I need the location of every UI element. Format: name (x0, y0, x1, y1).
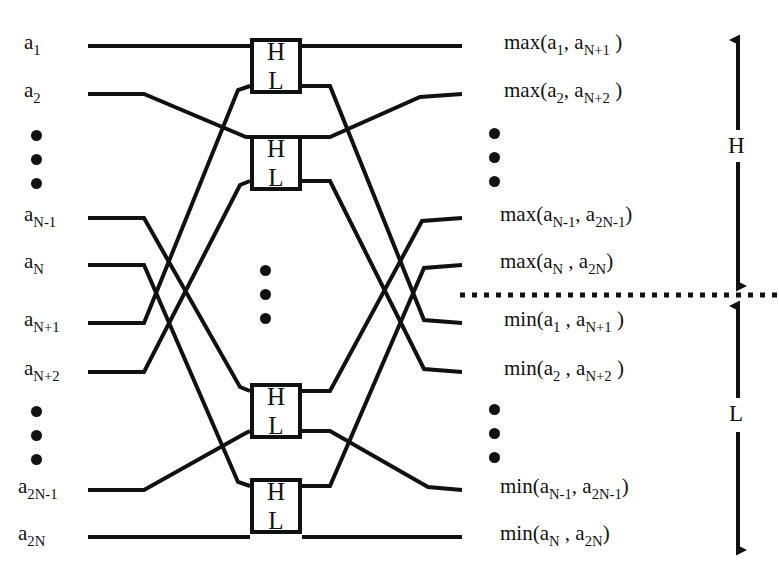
output-arg2-subscript: N+2 (585, 368, 611, 384)
input-subscript: 1 (33, 42, 40, 58)
input-base: a (24, 78, 33, 102)
comparator-lower-label: L (268, 66, 283, 96)
output-arg1-subscript: N (552, 261, 563, 277)
output-arg2-subscript: N+1 (584, 42, 610, 58)
comparator-box-2[interactable]: H L (250, 135, 302, 191)
output-ellipsis-upper (489, 128, 500, 187)
output-arg2-subscript: 2N (588, 261, 606, 277)
ellipsis-dot (31, 154, 42, 165)
output-arg2-base: a (574, 30, 583, 54)
comparator-box-4[interactable]: H L (250, 478, 302, 534)
output-label-min-aN: min(aN , a2N) (500, 521, 610, 550)
output-arg1-subscript: N-1 (552, 214, 575, 230)
comparator-box-1[interactable]: H L (250, 38, 302, 94)
ellipsis-dot (260, 265, 271, 276)
output-label-min-aN-1: min(aN-1, a2N-1) (500, 474, 629, 503)
output-arg1-base: a (544, 356, 553, 380)
comparator-box-3[interactable]: H L (250, 383, 302, 439)
ellipsis-dot (31, 406, 42, 417)
wire-aNp2-to-box2 (88, 181, 250, 372)
output-arg2-base: a (575, 521, 584, 545)
output-label-min-a2: min(a2 , aN+2 ) (504, 356, 624, 385)
ellipsis-dot (31, 454, 42, 465)
output-arg1-subscript: N (549, 533, 560, 549)
output-function: min (504, 356, 537, 380)
output-ellipsis-lower (489, 404, 500, 463)
output-arg1-base: a (540, 521, 549, 545)
output-arg1-subscript: 2 (556, 90, 563, 106)
input-subscript: N (33, 261, 44, 277)
ellipsis-dot (31, 430, 42, 441)
wire-aNp1-to-box1 (88, 86, 250, 323)
output-arg2-base: a (586, 202, 595, 226)
output-arg2-base: a (579, 249, 588, 273)
output-function: max (500, 249, 536, 273)
input-ellipsis-lower (31, 406, 42, 465)
output-label-min-a1: min(a1 , aN+1 ) (504, 307, 624, 336)
comparator-lower-label: L (268, 411, 283, 441)
output-arg2-subscript: N+1 (585, 319, 611, 335)
ellipsis-dot (489, 452, 500, 463)
ellipsis-dot (489, 152, 500, 163)
input-base: a (24, 30, 33, 54)
output-arg1-base: a (540, 474, 549, 498)
input-label-a2N-1: a2N-1 (18, 474, 58, 503)
output-label-max-a2: max(a2, aN+2 ) (504, 78, 622, 107)
ellipsis-dot (489, 428, 500, 439)
output-function: max (500, 202, 536, 226)
ellipsis-dot (31, 178, 42, 189)
input-label-a1: a1 (24, 30, 41, 59)
ellipsis-dot (489, 176, 500, 187)
input-subscript: N+2 (33, 368, 59, 384)
output-label-max-aN-1: max(aN-1, a2N-1) (500, 202, 632, 231)
input-label-aN-1: aN-1 (24, 202, 56, 231)
output-arg1-subscript: N-1 (549, 486, 572, 502)
input-subscript: N-1 (33, 214, 56, 230)
wire-box2-to-out-max2 (302, 94, 462, 137)
input-label-a2N: a2N (18, 521, 45, 550)
output-function: max (504, 78, 540, 102)
input-subscript: 2N-1 (27, 486, 57, 502)
output-function: min (500, 474, 533, 498)
output-arg2-subscript: N+2 (584, 90, 610, 106)
output-arg2-base: a (574, 78, 583, 102)
input-subscript: N+1 (33, 319, 59, 335)
output-label-max-a1: max(a1, aN+1 ) (504, 30, 622, 59)
output-arg1-subscript: 1 (553, 319, 560, 335)
input-subscript: 2 (33, 90, 40, 106)
input-label-aN: aN (24, 249, 44, 278)
input-base: a (24, 249, 33, 273)
ellipsis-dot (489, 128, 500, 139)
output-arg1-subscript: 1 (556, 42, 563, 58)
ellipsis-dot (31, 130, 42, 141)
comparator-upper-label: H (267, 477, 285, 507)
comparator-lower-label: L (268, 163, 283, 193)
output-arg2-subscript: 2N-1 (595, 214, 625, 230)
bracket-label-L: L (729, 401, 743, 427)
input-label-aN+1: aN+1 (24, 307, 60, 336)
input-base: a (24, 307, 33, 331)
output-label-max-aN: max(aN , a2N) (500, 249, 613, 278)
ellipsis-dot (260, 289, 271, 300)
comparator-upper-label: H (267, 382, 285, 412)
wire-a2Nm1-to-box3 (88, 431, 250, 490)
wire-aNm1-to-box3 (88, 218, 250, 391)
input-base: a (18, 474, 27, 498)
input-base: a (18, 521, 27, 545)
input-base: a (24, 356, 33, 380)
output-arg1-subscript: 2 (553, 368, 560, 384)
wire-box3-to-out-minNm1 (302, 431, 462, 490)
comparator-upper-label: H (267, 134, 285, 164)
input-subscript: 2N (27, 533, 45, 549)
wire-box2-to-out-min2 (302, 181, 462, 372)
output-arg2-subscript: 2N-1 (592, 486, 622, 502)
output-function: max (504, 30, 540, 54)
wire-aN-to-box4 (88, 265, 250, 486)
comparator-upper-label: H (267, 37, 285, 67)
center-ellipsis (260, 265, 271, 324)
ellipsis-dot (260, 313, 271, 324)
output-arg2-subscript: 2N (585, 533, 603, 549)
comparator-lower-label: L (268, 506, 283, 536)
wire-network (0, 0, 779, 583)
figure-canvas: H L H L H L H L a1 a2 aN-1 aN aN+1 aN+2 … (0, 0, 779, 583)
